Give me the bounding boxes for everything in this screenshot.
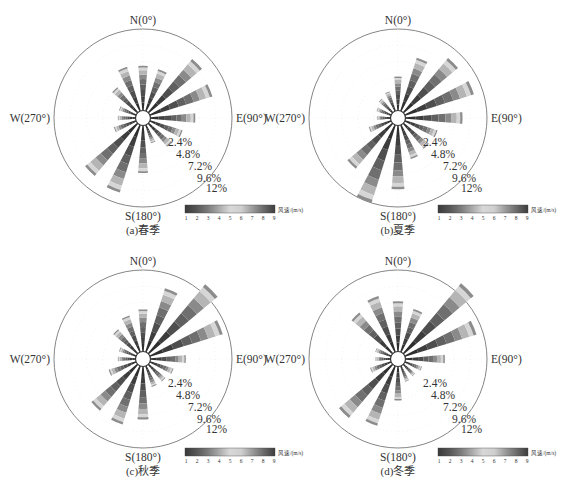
petal-segment (141, 338, 145, 344)
colorbar-tick: 5 (482, 458, 485, 464)
petal-segment (184, 355, 186, 363)
petal-segment (127, 358, 130, 361)
petal-segment (123, 357, 125, 361)
petal-segment (141, 332, 146, 338)
ring-label: 12% (206, 182, 228, 194)
petal-segment (395, 322, 402, 328)
label-south: S(180°) (380, 451, 416, 464)
petal-segment (417, 344, 428, 352)
petal-segment (395, 146, 402, 155)
petal-segment (377, 116, 378, 120)
label-east: E(90°) (236, 353, 267, 366)
petal-segment (395, 394, 402, 398)
colorbar-tick: 2 (196, 215, 199, 221)
label-north: N(0°) (385, 14, 411, 27)
petal-segment (138, 163, 147, 168)
petal-segment (140, 327, 146, 332)
petal-segment (396, 377, 400, 382)
colorbar-tick: 3 (460, 458, 463, 464)
petal-segment (397, 366, 399, 372)
colorbar-tick: 5 (229, 215, 232, 221)
wind-rose-panel-b: N(0°)S(180°)E(90°)W(270°)2.4%4.8%7.2%9.6… (265, 14, 557, 237)
wind-rose-panel-d: N(0°)S(180°)E(90°)W(270°)2.4%4.8%7.2%9.6… (265, 255, 557, 478)
petal-segment (129, 136, 137, 147)
petal-segment (171, 356, 175, 362)
petal-segment (140, 322, 147, 327)
petal-segment (443, 355, 445, 363)
colorbar-tick: 1 (185, 458, 188, 464)
colorbar (185, 205, 275, 213)
colorbar-tick: 9 (526, 215, 529, 221)
petal-segment (182, 114, 187, 122)
petal-segment (138, 67, 147, 70)
petal-segment (141, 96, 145, 102)
colorbar-tick: 8 (262, 215, 265, 221)
petal-segment (393, 303, 403, 306)
panel-title: (b)夏季 (381, 224, 416, 237)
colorbar-tick: 3 (207, 215, 210, 221)
petal-segment (438, 114, 445, 123)
center-hole (391, 352, 406, 367)
label-south: S(180°) (380, 210, 416, 223)
petal-segment (139, 311, 148, 314)
petal-segment (416, 104, 427, 112)
petal-segment (457, 112, 461, 123)
colorbar-tick: 6 (240, 458, 243, 464)
colorbar-tick: 8 (515, 215, 518, 221)
petal-segment (397, 104, 399, 110)
colorbar-tick: 1 (185, 215, 188, 221)
petal-segment (139, 397, 147, 404)
ring-label: 4.8% (431, 148, 455, 160)
petal-segment (383, 117, 385, 120)
petal-segment (150, 117, 158, 120)
label-west: W(270°) (265, 353, 306, 366)
petal-segment (139, 75, 147, 80)
petal-segment (165, 115, 171, 120)
label-east: E(90°) (491, 353, 522, 366)
petal-segment (119, 116, 120, 120)
petal-segment (451, 113, 457, 124)
panel-title: (c)秋季 (126, 464, 160, 478)
petal-segment (380, 357, 382, 360)
ring-label: 12% (461, 423, 483, 435)
ring-label: 7.2% (443, 160, 467, 172)
colorbar-tick: 5 (229, 458, 232, 464)
petal-segment (393, 301, 403, 303)
colorbar-tick: 4 (471, 458, 474, 464)
petal-segment (396, 91, 401, 95)
petal-segment (138, 168, 148, 171)
petal-segment (394, 316, 402, 322)
petal-segment (392, 183, 404, 187)
petal-segment (140, 90, 145, 96)
petal-segment (118, 116, 119, 121)
petal-segment (416, 116, 424, 121)
colorbar (438, 448, 528, 456)
petal-segment (150, 120, 156, 124)
petal-segment (396, 373, 399, 378)
center-hole (136, 352, 151, 367)
petal-segment (142, 344, 145, 352)
colorbar-tick: 7 (251, 458, 254, 464)
petal-segment (139, 153, 146, 159)
petal-segment (413, 357, 419, 361)
petal-segment (393, 170, 404, 177)
petal-segment (385, 376, 392, 386)
petal-segment (386, 334, 393, 343)
petal-segment (140, 147, 146, 153)
petal-segment (149, 332, 157, 342)
petal-segment (140, 85, 146, 90)
petal-segment (138, 417, 149, 419)
petal-segment (142, 102, 145, 110)
colorbar (185, 448, 275, 456)
ring-label: 7.2% (188, 401, 212, 413)
petal-segment (136, 345, 140, 352)
petal-segment (437, 355, 441, 363)
petal-segment (136, 103, 141, 111)
panel-title: (d)冬季 (381, 464, 416, 478)
petal-segment (162, 344, 174, 352)
petal-segment (142, 125, 145, 134)
colorbar-tick: 2 (449, 458, 452, 464)
petal-segment (186, 114, 191, 123)
colorbar-tick: 6 (493, 215, 496, 221)
petal-segment (157, 357, 162, 360)
